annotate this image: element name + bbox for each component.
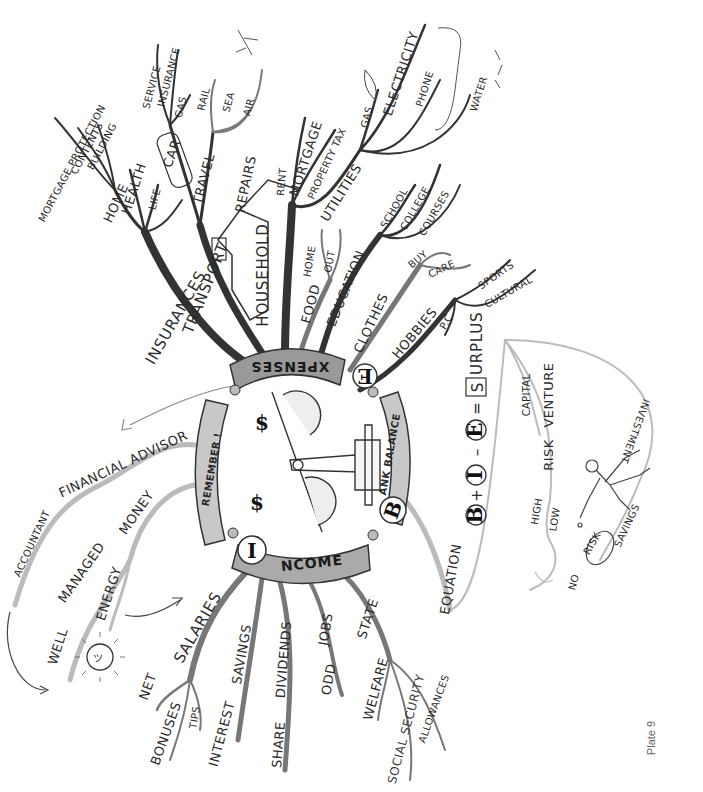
equation-e: E xyxy=(463,422,487,437)
capital-label: CAPITAL xyxy=(521,374,532,417)
risk-venture-label: RISK xyxy=(541,439,556,471)
interest-label: INTEREST xyxy=(206,699,238,768)
sun-icon: ツ xyxy=(75,632,125,682)
repairs-label: REPAIRS xyxy=(232,154,259,214)
airplane-icon xyxy=(236,30,258,55)
accountant-label: ACCOUNTANT xyxy=(12,508,53,578)
air-label: AIR xyxy=(241,97,256,117)
investment-label: INVESTMENT xyxy=(618,398,652,466)
net-label: NET xyxy=(136,671,159,702)
clothes-label: CLOTHES xyxy=(351,291,392,355)
expenses-hub-label: XPENSES xyxy=(250,359,329,375)
energy-label: ENERGY xyxy=(93,565,124,622)
phone-label: PHONE xyxy=(414,70,436,108)
svg-text:$: $ xyxy=(250,491,264,515)
welfare-label: WELFARE xyxy=(360,656,391,722)
equation-i: I xyxy=(463,470,487,479)
sea-label: SEA xyxy=(221,91,237,114)
rail-label: RAIL xyxy=(195,86,212,111)
no-risk-label: RISK xyxy=(581,530,603,556)
central-hub: $ $ E XPENSES I NCOME B ANK BALANCE REME… xyxy=(195,349,410,584)
care-label: CARE xyxy=(426,258,456,280)
mind-map-canvas: ツ xyxy=(0,0,703,792)
equation-minus: – xyxy=(468,448,486,456)
scales-icon xyxy=(272,391,380,532)
equation-plus: + xyxy=(468,488,486,501)
hobbies-label: HOBBIES xyxy=(389,305,440,362)
low-label: LOW xyxy=(547,507,562,532)
phone-cord-icon xyxy=(435,28,461,130)
surplus-equation: B + I – E = S URPLUS xyxy=(463,312,487,525)
car-gas-label: GAS xyxy=(172,95,188,119)
equation-b: B xyxy=(463,507,487,524)
leaf-icon xyxy=(364,70,376,100)
income-initial: I xyxy=(247,539,256,563)
odd-label: ODD xyxy=(318,662,338,696)
household-label: HOUSEHOLD xyxy=(254,223,272,326)
jobs-label: JOBS xyxy=(315,612,336,648)
utilities-gas-label: GAS xyxy=(358,105,374,129)
life-label: LIFE xyxy=(146,187,162,211)
well-label: WELL xyxy=(45,626,71,667)
equation-s: S xyxy=(469,382,487,392)
svg-text:ツ: ツ xyxy=(93,653,103,664)
income-labels: SALARIES NET BONUSES TIPS SAVINGS INTERE… xyxy=(136,589,451,785)
expenses-initial: E xyxy=(357,364,372,388)
venture-label: VENTURE xyxy=(541,362,556,427)
no-label: NO xyxy=(566,573,581,591)
water-label: WATER xyxy=(468,75,490,113)
financial-advisor-label: FINANCIAL ADVISOR xyxy=(56,427,189,500)
water-tap-icon xyxy=(495,50,502,88)
travel-label: TRAVEL xyxy=(189,152,217,207)
equation-surplus: URPLUS xyxy=(468,312,486,375)
plate-label: Plate 9 xyxy=(645,721,657,755)
dollar-figure-icon: $ $ xyxy=(250,411,269,515)
svg-text:$: $ xyxy=(255,411,269,435)
equation-equals: = xyxy=(468,401,486,414)
high-label: HIGH xyxy=(529,497,545,525)
food-home-label: HOME xyxy=(301,245,317,278)
